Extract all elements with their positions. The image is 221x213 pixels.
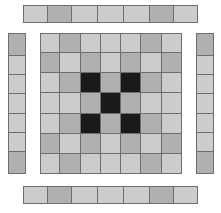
- right-strip-cell: [196, 151, 214, 174]
- grid-cell: [140, 33, 161, 53]
- top-strip: [23, 5, 198, 23]
- top-strip-cell: [47, 5, 72, 23]
- main-grid: [40, 33, 182, 174]
- grid-cell: [40, 52, 60, 73]
- left-strip-cell: [8, 132, 26, 152]
- grid-cell: [120, 52, 141, 73]
- grid-cell: [80, 33, 101, 53]
- grid-cell: [40, 113, 60, 134]
- grid-cell: [100, 33, 121, 53]
- bottom-strip-cell: [47, 186, 72, 204]
- bottom-strip-cell: [71, 186, 98, 204]
- grid-cell: [40, 153, 60, 174]
- grid-cell: [100, 113, 121, 134]
- grid-cell: [140, 72, 161, 93]
- bottom-strip-cell: [123, 186, 150, 204]
- grid-cell: [161, 133, 182, 154]
- grid-cell: [140, 113, 161, 134]
- bottom-strip-cell: [149, 186, 174, 204]
- grid-cell: [161, 52, 182, 73]
- grid-cell: [80, 52, 101, 73]
- grid-cell: [59, 113, 80, 134]
- grid-cell: [100, 72, 121, 93]
- right-strip-cell: [196, 74, 214, 94]
- bottom-strip: [23, 186, 198, 204]
- right-strip-cell: [196, 113, 214, 133]
- grid-cell: [120, 92, 141, 113]
- grid-cell: [140, 153, 161, 174]
- right-strip-cell: [196, 93, 214, 113]
- grid-cell: [161, 33, 182, 53]
- grid-cell: [100, 92, 121, 113]
- grid-cell: [80, 72, 101, 93]
- grid-cell: [80, 92, 101, 113]
- grid-cell: [59, 153, 80, 174]
- top-strip-cell: [97, 5, 124, 23]
- grid-cell: [120, 113, 141, 134]
- top-strip-cell: [71, 5, 98, 23]
- bottom-strip-cell: [97, 186, 124, 204]
- grid-cell: [80, 133, 101, 154]
- top-strip-cell: [149, 5, 174, 23]
- grid-cell: [40, 133, 60, 154]
- grid-cell: [161, 113, 182, 134]
- left-strip-cell: [8, 113, 26, 133]
- grid-cell: [161, 92, 182, 113]
- left-strip-cell: [8, 74, 26, 94]
- grid-cell: [80, 153, 101, 174]
- grid-cell: [140, 92, 161, 113]
- grid-cell: [59, 133, 80, 154]
- grid-cell: [40, 33, 60, 53]
- grid-cell: [120, 133, 141, 154]
- grid-cell: [40, 92, 60, 113]
- bottom-strip-cell: [173, 186, 198, 204]
- grid-cell: [40, 72, 60, 93]
- top-strip-cell: [123, 5, 150, 23]
- right-strip-cell: [196, 55, 214, 75]
- grid-cell: [161, 153, 182, 174]
- grid-cell: [100, 133, 121, 154]
- grid-cell: [59, 92, 80, 113]
- grid-cell: [120, 72, 141, 93]
- grid-cell: [59, 52, 80, 73]
- left-strip-cell: [8, 93, 26, 113]
- grid-cell: [80, 113, 101, 134]
- grid-cell: [120, 33, 141, 53]
- left-strip: [8, 33, 26, 174]
- grid-cell: [140, 133, 161, 154]
- top-strip-cell: [23, 5, 48, 23]
- right-strip: [196, 33, 214, 174]
- left-strip-cell: [8, 55, 26, 75]
- grid-cell: [120, 153, 141, 174]
- grid-cell: [140, 52, 161, 73]
- grid-cell: [59, 33, 80, 53]
- right-strip-cell: [196, 132, 214, 152]
- top-strip-cell: [173, 5, 198, 23]
- grid-cell: [100, 52, 121, 73]
- grid-cell: [100, 153, 121, 174]
- bottom-strip-cell: [23, 186, 48, 204]
- figure-canvas: [0, 0, 221, 213]
- left-strip-cell: [8, 33, 26, 56]
- right-strip-cell: [196, 33, 214, 56]
- grid-cell: [59, 72, 80, 93]
- grid-cell: [161, 72, 182, 93]
- left-strip-cell: [8, 151, 26, 174]
